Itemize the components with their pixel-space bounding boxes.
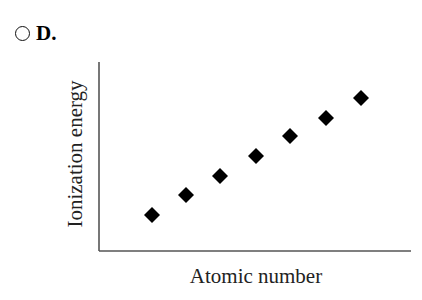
data-points [144,90,369,223]
diamond-marker [212,168,228,184]
scatter-chart: Atomic number Ionization energy [0,0,422,300]
diamond-marker [353,90,369,106]
diamond-marker [282,128,298,144]
diamond-marker [248,148,264,164]
diamond-marker [144,207,160,223]
x-axis-label: Atomic number [190,264,322,288]
diamond-marker [178,187,194,203]
diamond-marker [318,110,334,126]
y-axis-label: Ionization energy [63,80,87,228]
